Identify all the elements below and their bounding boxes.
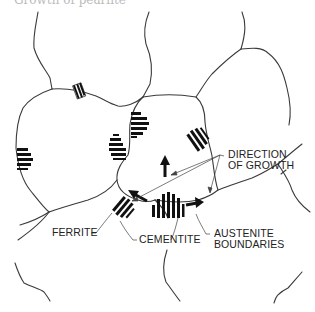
label-ferrite: FERRITE (52, 227, 98, 238)
label-cementite: CEMENTITE (139, 234, 201, 245)
label-direction-line2: OF GROWTH (228, 160, 294, 171)
pearlite-growth-diagram: Growth of pearlite (0, 0, 315, 312)
pearlite-nodule-large (152, 192, 185, 218)
pearlite-nodule (73, 83, 86, 99)
pearlite-nodule (186, 125, 213, 153)
pearlite-nodule-labeled (111, 195, 137, 221)
label-austenite-line2: BOUNDARIES (214, 239, 284, 250)
pearlite-nodules (17, 83, 212, 222)
arrow-up-icon (160, 155, 170, 177)
pearlite-nodule (131, 112, 149, 138)
label-austenite-boundaries: AUSTENITE BOUNDARIES (214, 228, 284, 250)
label-direction-of-growth: DIRECTION OF GROWTH (228, 149, 294, 171)
pearlite-nodule (109, 134, 126, 160)
